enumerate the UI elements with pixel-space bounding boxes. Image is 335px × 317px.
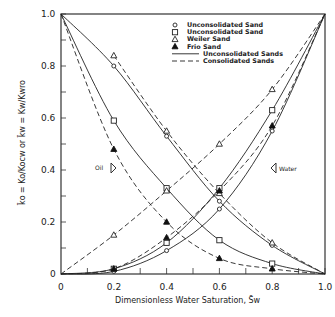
y-tick-label: 0 <box>50 269 56 279</box>
svg-text:k̄o = Ko/Kocw or k̄w = Kw/Kw: k̄o = Ko/Kocw or k̄w = Kw/Kwro <box>17 80 27 206</box>
plot-frame <box>61 14 325 274</box>
y-tick-label: 0.4 <box>41 165 56 175</box>
curve-line <box>61 14 325 274</box>
arrow-right-icon <box>111 163 116 173</box>
data-markers <box>111 52 275 273</box>
legend: Unconsolidated SandUnconsolidated SandWe… <box>172 21 283 65</box>
y-tick-label: 0.2 <box>41 217 55 227</box>
water-label: Water <box>279 165 297 172</box>
legend-label: Consolidated Sands <box>203 57 274 65</box>
x-tick-label: 0.6 <box>212 282 227 292</box>
curve-line <box>61 14 325 274</box>
arrow-left-icon <box>271 163 276 173</box>
x-tick-label: 0.2 <box>107 282 121 292</box>
y-axis-label: k̄o = Ko/Kocw or k̄w = Kw/Kwro <box>17 80 27 206</box>
oil-arrow-annotation: Oil <box>95 163 116 173</box>
x-tick-label: 0.8 <box>265 282 280 292</box>
relative-permeability-chart: 00.20.40.60.81.000.20.40.60.81.0 Unconso… <box>0 0 335 317</box>
curve-line <box>61 14 325 274</box>
x-tick-label: 0 <box>58 282 64 292</box>
y-tick-label: 0.8 <box>41 61 56 71</box>
curve-line <box>61 14 325 274</box>
curve-line <box>61 14 325 274</box>
curves <box>61 14 325 274</box>
oil-label: Oil <box>95 164 103 171</box>
x-tick-label: 0.4 <box>160 282 175 292</box>
x-axis-label: Dimensionless Water Saturation, S̄w <box>115 295 261 305</box>
curve-line <box>61 14 325 274</box>
water-arrow-annotation: Water <box>271 163 297 173</box>
x-tick-label: 1.0 <box>318 282 333 292</box>
curve-line <box>61 14 325 274</box>
y-tick-label: 0.6 <box>41 113 56 123</box>
y-tick-label: 1.0 <box>41 9 56 19</box>
axis-ticks: 00.20.40.60.81.000.20.40.60.81.0 <box>41 9 333 292</box>
